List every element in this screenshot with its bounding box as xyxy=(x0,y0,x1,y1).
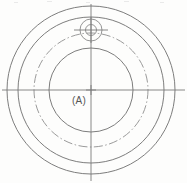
scan-artifact xyxy=(47,1,52,2)
scan-artifact xyxy=(160,2,164,3)
datum-label-a: (A) xyxy=(72,95,86,106)
scan-artifact xyxy=(124,1,129,2)
drawing-vector-layer xyxy=(0,0,187,183)
engineering-drawing-canvas: (A) xyxy=(0,0,187,183)
scan-artifact xyxy=(86,2,90,3)
scan-artifact xyxy=(14,2,18,3)
